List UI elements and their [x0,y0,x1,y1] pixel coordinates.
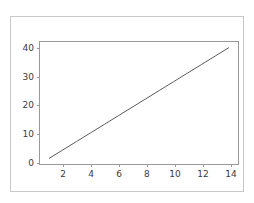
x-tick-label: 4 [88,170,94,179]
y-tick-mark [37,134,40,135]
line-plot-svg [40,42,238,164]
x-tick-label: 6 [116,170,122,179]
y-tick-label: 30 [23,72,34,81]
y-tick-mark [37,105,40,106]
x-tick-label: 2 [60,170,66,179]
x-tick-label: 14 [225,170,236,179]
x-tick-label: 10 [169,170,180,179]
plot-axes: 010203040 2468101214 [39,41,239,165]
y-tick-mark [37,163,40,164]
y-tick-label: 0 [28,159,34,168]
x-tick-mark [119,164,120,167]
x-tick-label: 12 [197,170,208,179]
x-tick-mark [63,164,64,167]
y-tick-mark [37,48,40,49]
y-tick-label: 10 [23,130,34,139]
x-tick-mark [175,164,176,167]
y-tick-label: 40 [23,43,34,52]
y-tick-label: 20 [23,101,34,110]
x-tick-mark [231,164,232,167]
x-tick-mark [91,164,92,167]
x-tick-label: 8 [144,170,150,179]
figure-canvas: 010203040 2468101214 [10,16,244,192]
data-series-line [49,48,229,159]
x-tick-mark [147,164,148,167]
y-tick-mark [37,77,40,78]
x-tick-mark [203,164,204,167]
